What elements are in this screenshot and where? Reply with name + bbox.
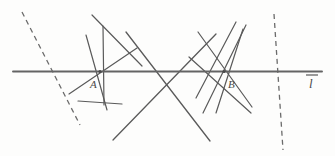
geometry-figure: A B l	[0, 0, 335, 156]
dashed-lines-group	[22, 12, 283, 150]
line-l-label: l	[309, 76, 313, 91]
lines-through-a-group	[69, 15, 142, 110]
line-l-label-group: l	[306, 75, 318, 91]
dashed-line-left	[22, 12, 80, 125]
a-line-5	[92, 15, 142, 66]
lines-through-b-group	[189, 22, 252, 113]
crossing-lines-group	[113, 32, 216, 141]
point-a-marker	[98, 70, 101, 73]
b-line-3	[189, 57, 251, 113]
a-line-2	[103, 26, 104, 105]
dashed-line-right	[274, 14, 283, 150]
geometry-canvas: A B l	[0, 0, 335, 156]
point-b-marker	[222, 70, 225, 73]
point-a-label: A	[89, 78, 97, 90]
cross-line-2	[126, 32, 210, 141]
cross-line-1	[113, 34, 216, 140]
point-b-label: B	[228, 78, 235, 90]
a-line-4	[78, 101, 122, 104]
